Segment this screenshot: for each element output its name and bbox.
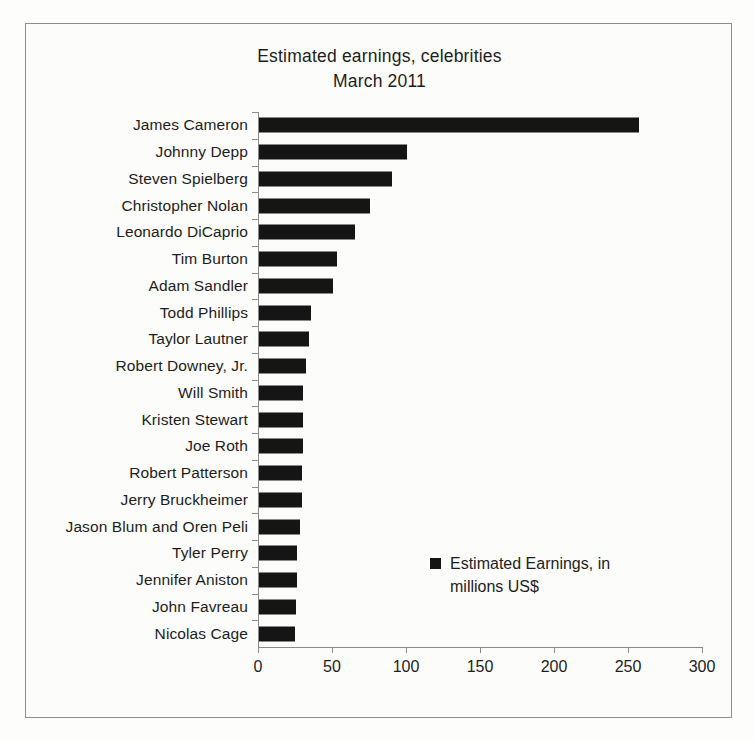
category-label: Adam Sandler — [149, 277, 248, 295]
bar — [259, 573, 297, 588]
bar-row: Christopher Nolan — [26, 192, 733, 219]
bar — [259, 439, 303, 454]
bar — [259, 225, 355, 240]
category-label: Tim Burton — [172, 250, 248, 268]
value-tick — [628, 647, 629, 653]
value-tick-label: 250 — [615, 658, 642, 676]
bar-row: Kristen Stewart — [26, 406, 733, 433]
category-tick — [252, 513, 258, 514]
chart-frame: Estimated earnings, celebrities March 20… — [25, 23, 732, 718]
category-tick — [252, 112, 258, 113]
chart-title-line1: Estimated earnings, celebrities — [257, 46, 502, 66]
bar-row: Joe Roth — [26, 433, 733, 460]
bar — [259, 466, 302, 481]
value-tick — [480, 647, 481, 653]
value-tick — [554, 647, 555, 653]
bar-row: Will Smith — [26, 380, 733, 407]
bar-row: Adam Sandler — [26, 273, 733, 300]
value-tick-label: 0 — [254, 658, 263, 676]
bar — [259, 385, 303, 400]
category-label: Nicolas Cage — [155, 625, 248, 643]
chart-title: Estimated earnings, celebrities March 20… — [26, 44, 733, 94]
bar-row: Jerry Bruckheimer — [26, 487, 733, 514]
category-label: James Cameron — [133, 116, 248, 134]
bar — [259, 492, 302, 507]
bar-row: Robert Downey, Jr. — [26, 353, 733, 380]
category-label: Leonardo DiCaprio — [116, 223, 248, 241]
bar — [259, 599, 296, 614]
category-tick — [252, 326, 258, 327]
bar — [259, 252, 337, 267]
category-tick — [252, 139, 258, 140]
bar-row: Johnny Depp — [26, 139, 733, 166]
category-tick — [252, 353, 258, 354]
legend-swatch-icon — [430, 558, 441, 569]
bar-row: Leonardo DiCaprio — [26, 219, 733, 246]
category-tick — [252, 620, 258, 621]
value-tick-label: 100 — [393, 658, 420, 676]
category-label: Kristen Stewart — [141, 411, 248, 429]
bar — [259, 171, 392, 186]
category-label: Jason Blum and Oren Peli — [66, 518, 248, 536]
category-label: Robert Patterson — [129, 464, 248, 482]
category-tick — [252, 273, 258, 274]
bar — [259, 626, 295, 641]
value-tick-label: 50 — [323, 658, 341, 676]
value-tick — [332, 647, 333, 653]
figure-canvas: Estimated earnings, celebrities March 20… — [0, 0, 755, 741]
category-tick — [252, 540, 258, 541]
category-tick — [252, 567, 258, 568]
bar-row: James Cameron — [26, 112, 733, 139]
bar — [259, 359, 306, 374]
category-label: Johnny Depp — [156, 143, 248, 161]
value-tick-label: 150 — [467, 658, 494, 676]
value-tick — [406, 647, 407, 653]
value-tick — [702, 647, 703, 653]
bar — [259, 278, 333, 293]
category-label: Christopher Nolan — [121, 197, 248, 215]
bar — [259, 546, 297, 561]
category-tick — [252, 594, 258, 595]
category-label: Will Smith — [178, 384, 248, 402]
category-tick — [252, 299, 258, 300]
category-label: Todd Phillips — [160, 304, 248, 322]
category-tick — [252, 433, 258, 434]
category-label: Robert Downey, Jr. — [116, 357, 248, 375]
category-tick — [252, 246, 258, 247]
bar-row: Todd Phillips — [26, 299, 733, 326]
category-tick — [252, 219, 258, 220]
category-tick — [252, 166, 258, 167]
category-label: Joe Roth — [185, 437, 248, 455]
bar — [259, 118, 639, 133]
category-label: Steven Spielberg — [128, 170, 248, 188]
category-label: Taylor Lautner — [148, 330, 248, 348]
value-tick-label: 300 — [689, 658, 716, 676]
bar-row: Jason Blum and Oren Peli — [26, 513, 733, 540]
category-label: Jennifer Aniston — [136, 571, 248, 589]
legend-label-line1: Estimated Earnings, in — [450, 555, 610, 572]
bar — [259, 412, 303, 427]
category-tick — [252, 487, 258, 488]
bar-row: Robert Patterson — [26, 460, 733, 487]
category-tick — [252, 460, 258, 461]
bar — [259, 519, 300, 534]
bar — [259, 305, 311, 320]
category-label: John Favreau — [152, 598, 248, 616]
legend-label: Estimated Earnings, in millions US$ — [450, 552, 665, 598]
value-tick-label: 200 — [541, 658, 568, 676]
legend-label-line2: millions US$ — [450, 578, 539, 595]
category-label: Jerry Bruckheimer — [121, 491, 248, 509]
plot-area: James CameronJohnny DeppSteven Spielberg… — [26, 112, 733, 672]
bar — [259, 198, 370, 213]
bar-row: Tim Burton — [26, 246, 733, 273]
category-tick — [252, 406, 258, 407]
category-label: Tyler Perry — [172, 544, 248, 562]
bar — [259, 332, 309, 347]
bar-row: Taylor Lautner — [26, 326, 733, 353]
bar — [259, 145, 407, 160]
bar-row: Steven Spielberg — [26, 166, 733, 193]
value-tick — [258, 647, 259, 653]
category-tick — [252, 192, 258, 193]
category-tick — [252, 380, 258, 381]
chart-subtitle: March 2011 — [26, 69, 733, 94]
